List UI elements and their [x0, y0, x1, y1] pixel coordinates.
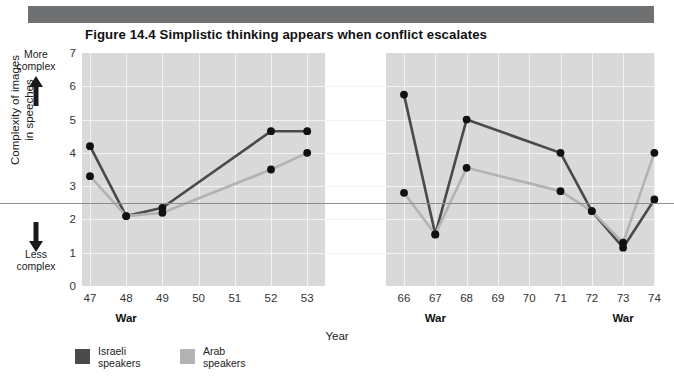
x-axis-tick: 70: [514, 292, 544, 304]
data-point: [400, 189, 408, 197]
data-point: [303, 149, 311, 157]
x-axis-tick: 51: [220, 292, 250, 304]
data-point: [463, 164, 471, 172]
data-point: [159, 209, 167, 217]
war-marker-label: War: [104, 312, 148, 324]
x-axis-title: Year: [0, 330, 674, 342]
data-point: [400, 91, 408, 99]
x-axis-tick: 48: [111, 292, 141, 304]
y-axis-tick: 6: [54, 80, 76, 92]
arrow-up-icon: [28, 76, 44, 106]
legend-label: Israeli speakers: [98, 345, 188, 369]
x-axis-tick: 52: [256, 292, 286, 304]
data-point: [267, 127, 275, 135]
x-axis-tick: 71: [546, 292, 576, 304]
y-axis-tick: 4: [54, 147, 76, 159]
x-axis-tick: 53: [292, 292, 322, 304]
y-axis-tick: 5: [54, 114, 76, 126]
x-axis-tick: 72: [577, 292, 607, 304]
series-line: [404, 153, 654, 243]
x-axis-tick: 49: [147, 292, 177, 304]
data-point: [588, 207, 596, 215]
legend-label: Arab speakers: [203, 345, 293, 369]
data-point: [431, 231, 439, 239]
arrow-down-icon: [28, 222, 44, 252]
data-point: [267, 166, 275, 174]
reference-line: [0, 203, 674, 204]
x-axis-tick: 47: [75, 292, 105, 304]
series-layer: [0, 0, 674, 384]
data-point: [557, 149, 565, 157]
data-point: [651, 149, 659, 157]
x-axis-tick: 67: [420, 292, 450, 304]
series-line: [404, 95, 654, 248]
war-marker-label: War: [413, 312, 457, 324]
y-axis-tick: 3: [54, 180, 76, 192]
data-point: [86, 172, 94, 180]
x-axis-tick: 74: [639, 292, 669, 304]
x-axis-tick: 66: [389, 292, 419, 304]
legend-color-swatch: [180, 349, 195, 364]
x-axis-tick: 69: [483, 292, 513, 304]
x-axis-tick: 73: [608, 292, 638, 304]
data-point: [619, 239, 627, 247]
data-point: [557, 187, 565, 195]
y-axis-title-wrapper: Complexity of images in speeches: [0, 0, 44, 260]
y-axis-top-label: More complex: [0, 48, 72, 72]
legend-color-swatch: [75, 349, 90, 364]
x-axis-tick: 68: [452, 292, 482, 304]
y-axis-tick: 0: [54, 280, 76, 292]
data-point: [463, 116, 471, 124]
data-point: [122, 212, 130, 220]
data-point: [86, 142, 94, 150]
war-marker-label: War: [601, 312, 645, 324]
data-point: [303, 127, 311, 135]
x-axis-tick: 50: [184, 292, 214, 304]
figure-container: Figure 14.4 Simplistic thinking appears …: [0, 0, 674, 384]
y-axis-tick: 2: [54, 213, 76, 225]
